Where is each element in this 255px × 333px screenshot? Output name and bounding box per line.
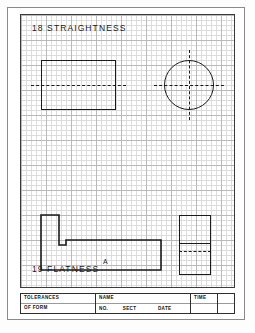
name-label: NAME (99, 296, 114, 301)
title-block-column-name: NAME NO. SECT DATE (96, 294, 191, 313)
time-value-row (191, 304, 217, 314)
title-block-column-time: TIME (191, 294, 218, 313)
title-block: TOLERANCES OF FORM NAME NO. SECT DATE TI… (20, 293, 235, 314)
circle-vertical-centerline (189, 50, 190, 120)
name-row: NAME (96, 294, 190, 304)
top-left-horizontal-centerline (31, 85, 126, 86)
title-block-column-tolerances: TOLERANCES OF FORM (21, 294, 96, 313)
end-view-division-line (179, 243, 211, 244)
time-row: TIME (191, 294, 217, 304)
heading-straightness: 18 STRAIGHTNESS (32, 23, 126, 33)
no-label: NO. (96, 306, 120, 311)
blank-row-1 (218, 294, 234, 304)
stepped-block-outline (41, 210, 171, 275)
date-label: DATE (155, 306, 190, 311)
blank-row-2 (218, 304, 234, 314)
tolerances-row-2: OF FORM (21, 304, 95, 314)
tolerances-row-1: TOLERANCES (21, 294, 95, 304)
tolerances-label-line1: TOLERANCES (24, 296, 59, 301)
end-view-hidden-line (179, 251, 211, 252)
no-sect-date-row: NO. SECT DATE (96, 304, 190, 314)
time-label: TIME (194, 296, 206, 301)
graph-paper-grid: 18 STRAIGHTNESS 19 FLATNESS A (20, 14, 235, 288)
part-label-a: A (103, 258, 108, 265)
tolerances-label-line2: OF FORM (24, 306, 48, 311)
stepped-block-path (41, 215, 161, 270)
end-view-rectangle (179, 215, 211, 275)
drawing-sheet: 18 STRAIGHTNESS 19 FLATNESS A TOLERANCES… (0, 0, 255, 333)
title-block-column-blank (218, 294, 234, 313)
sect-label: SECT (120, 306, 155, 311)
